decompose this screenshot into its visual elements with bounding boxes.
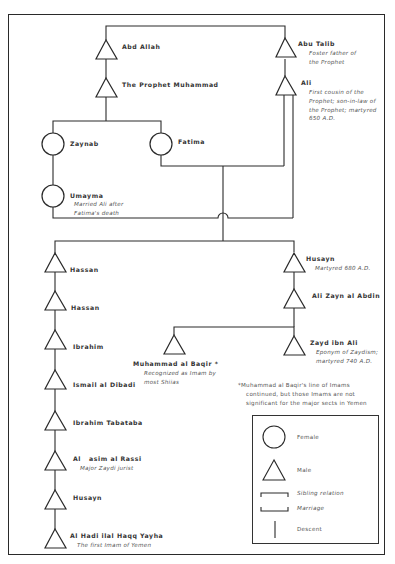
triangle-al-hadi [45, 529, 66, 548]
label-abu-talib: Abu Talib [298, 40, 335, 48]
triangle-ali [276, 76, 296, 95]
triangle-abu-talib [276, 38, 296, 57]
triangle-husayn [284, 253, 305, 272]
circle-fatima [150, 133, 172, 155]
label-muhammad-baqir: Muhammad al Baqir * [133, 360, 219, 368]
note-al-hadi: The first Imam of Yemen [77, 541, 151, 550]
note-al-qasim: Major Zaydi jurist [80, 464, 133, 473]
triangle-ismail [45, 370, 66, 389]
triangle-hassan-2 [45, 291, 66, 310]
triangle-hassan-1 [45, 253, 66, 272]
label-ali-zayn: Ali Zayn al Abdin [312, 292, 380, 300]
triangle-husayn-lower [45, 490, 66, 509]
label-fatima: Fatima [178, 138, 205, 146]
label-husayn: Husayn [306, 255, 335, 263]
triangle-zayd [284, 336, 305, 355]
marriage-line-fatima [161, 155, 284, 166]
triangle-muhammad [96, 78, 117, 97]
legend-male-label: Male [297, 467, 311, 473]
label-ismail: Ismail al Dibadi [73, 381, 136, 389]
legend-descent-label: Descent [297, 526, 322, 532]
note-husayn: Martyred 680 A.D. [315, 264, 371, 273]
label-ibrahim-tabataba: Ibrahim Tabataba [73, 419, 143, 427]
triangle-muhammad-baqir [164, 335, 185, 354]
triangle-ali-zayn [284, 289, 305, 308]
label-hassan-1: Hassan [70, 266, 99, 274]
legend-marriage-label: Marriage [297, 505, 324, 511]
triangle-al-qasim [45, 451, 66, 470]
label-abd-allah: Abd Allah [122, 43, 160, 51]
circle-umayma [42, 185, 64, 207]
note-abu-talib: Foster father of the Prophet [309, 49, 356, 67]
note-muhammad-baqir: Recognized as Imam by most Shiias [144, 369, 216, 387]
triangle-ibrahim [45, 330, 66, 349]
legend-female-label: Female [297, 434, 319, 440]
triangle-abd-allah [96, 40, 117, 59]
label-umayma: Umayma [70, 192, 103, 200]
label-zaynab: Zaynab [70, 140, 99, 148]
label-al-hadi: Al Hadi ilal Haqq Yayha [70, 532, 163, 540]
footnote: *Muhammad al Baqir's line of Imams conti… [238, 381, 367, 407]
circle-zaynab [42, 133, 64, 155]
triangle-ibrahim-tabataba [45, 411, 66, 430]
label-zayd: Zayd ibn Ali [310, 339, 358, 347]
note-ali: First cousin of the Prophet; son-in-law … [309, 88, 377, 123]
label-al-qasim: Al asim al Rassi [73, 455, 142, 463]
label-ibrahim: Ibrahim [73, 343, 104, 351]
label-muhammad: The Prophet Muhammad [122, 81, 219, 89]
legend-sibling-label: Sibling relation [297, 490, 344, 496]
sibling-line-zaynab-fatima [53, 121, 161, 133]
sibling-line-hassan-husayn [55, 241, 294, 253]
note-zayd: Eponym of Zaydism; martyred 740 A.D. [316, 348, 378, 366]
label-hassan-2: Hassan [71, 304, 100, 312]
label-ali: Ali [301, 79, 312, 87]
label-husayn-lower: Husayn [73, 494, 102, 502]
note-umayma: Married Ali after Fatima's death [74, 200, 123, 218]
sibling-line-baqir-zayd [174, 327, 294, 336]
sibling-line-abdallah-abutalib [106, 26, 285, 40]
genealogy-diagram: Abd Allah The Prophet Muhammad Abu Talib… [0, 0, 395, 564]
